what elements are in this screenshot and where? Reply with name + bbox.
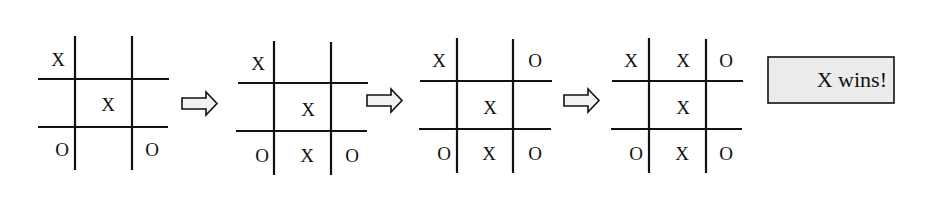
cell-r2c2: O [345, 145, 359, 166]
cell-r2c0: O [437, 143, 451, 164]
cell-r0c0: X [251, 53, 265, 74]
cell-r2c2: O [145, 139, 159, 160]
cell-r2c0: O [55, 139, 69, 160]
cell-r2c0: O [255, 145, 269, 166]
cell-r0c0: X [432, 50, 446, 71]
board-3: X O X O X O [419, 38, 552, 173]
cell-r1c1: X [301, 99, 315, 120]
cell-r1c1: X [676, 97, 690, 118]
board-1: X X O O [38, 36, 169, 170]
board-2: X X O X O [236, 41, 368, 175]
result-box: X wins! [768, 57, 894, 103]
cell-r0c0: X [624, 50, 638, 71]
cell-r2c1: X [675, 143, 689, 164]
cell-r0c2: O [528, 50, 542, 71]
cell-r0c2: O [719, 50, 733, 71]
right-arrow-icon [564, 89, 599, 112]
diagram-canvas: X X O O X X O X O X O X [0, 0, 927, 206]
cell-r2c2: O [719, 143, 733, 164]
board-4: X X O X O X O [611, 38, 743, 173]
cell-r1c1: X [101, 94, 115, 115]
cell-r2c0: O [629, 143, 643, 164]
right-arrow-icon [367, 89, 402, 112]
cell-r2c1: X [482, 143, 496, 164]
right-arrow-icon [182, 92, 217, 115]
cell-r0c0: X [51, 49, 65, 70]
result-label: X wins! [817, 67, 887, 92]
cell-r2c1: X [300, 145, 314, 166]
cell-r1c1: X [483, 97, 497, 118]
cell-r0c1: X [676, 50, 690, 71]
cell-r2c2: O [528, 143, 542, 164]
